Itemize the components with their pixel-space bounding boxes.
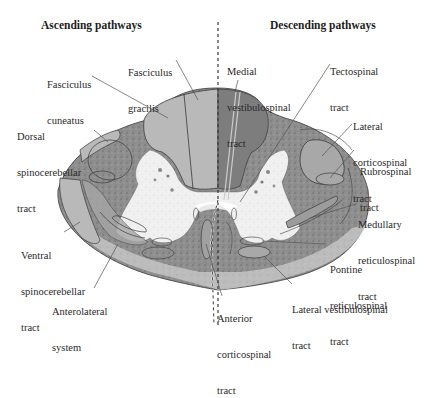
label-anterolateral-system: Anterolateral system <box>52 282 107 366</box>
label-fasciculus-gracilis: Fasciculus gracilis <box>128 43 172 127</box>
label-medial-vestibulospinal: Medial vestibulospinal tract <box>227 42 291 162</box>
lateral-vestibulospinal-tract <box>238 246 270 258</box>
anterior-corticospinal-tract <box>201 220 213 259</box>
ascending-pathways-header: Ascending pathways <box>41 19 142 31</box>
label-dorsal-spinocerebellar: Dorsal spinocerebellar tract <box>17 107 81 227</box>
rubrospinal-tract <box>316 173 344 185</box>
label-anterior-corticospinal: Anterior corticospinal tract <box>217 289 271 398</box>
label-lateral-vestibulospinal: Lateral vestibulospinal tract <box>292 280 388 364</box>
descending-pathways-header: Descending pathways <box>270 19 376 31</box>
